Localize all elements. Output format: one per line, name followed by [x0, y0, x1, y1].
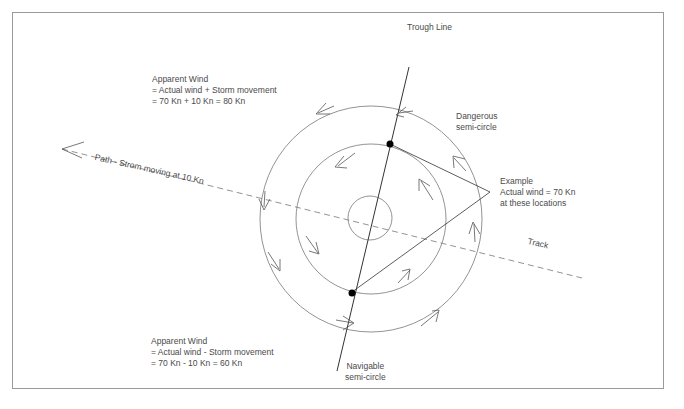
dangerous-label-line1: Dangerous: [456, 111, 498, 122]
storm-circles: [260, 106, 482, 332]
example-label: Example Actual wind = 70 Kn at these loc…: [500, 176, 575, 209]
storm-diagram: [0, 0, 684, 409]
wind-arrow-icon: [316, 103, 334, 114]
example-line3: at these locations: [500, 198, 575, 209]
outer-circle: [260, 106, 482, 332]
apparent-wind-top-label: Apparent Wind = Actual wind + Storm move…: [152, 74, 277, 107]
dangerous-label-line2: semi-circle: [456, 122, 498, 133]
wind-arrow-icon: [421, 310, 439, 326]
wind-arrow-icon: [306, 236, 319, 254]
apparent-wind-top-line2: = Actual wind + Storm movement: [152, 85, 277, 96]
navigable-label-line2: semi-circle: [345, 372, 386, 383]
wind-arrow-icon: [469, 222, 480, 242]
middle-circle: [296, 144, 446, 294]
wind-arrow-icon: [453, 156, 466, 171]
dangerous-semicircle-label: Dangerous semi-circle: [456, 111, 498, 133]
wind-arrow-icon: [419, 179, 433, 200]
apparent-wind-bottom-line3: = 70 Kn - 10 Kn = 60 Kn: [151, 358, 274, 369]
example-line2: Actual wind = 70 Kn: [500, 187, 575, 198]
apparent-wind-bottom-line2: = Actual wind - Storm movement: [151, 347, 274, 358]
dangerous-point-dot: [387, 141, 394, 148]
example-line1: Example: [500, 176, 575, 187]
wind-arrow-icon: [335, 153, 355, 168]
trough-line-label: Trough Line: [407, 22, 452, 33]
apparent-wind-top-line3: = 70 Kn + 10 Kn = 80 Kn: [152, 96, 277, 107]
navigable-semicircle-label: Navigable semi-circle: [345, 361, 386, 383]
wind-arrow-icon: [268, 252, 280, 271]
apparent-wind-top-line1: Apparent Wind: [152, 74, 277, 85]
navigable-point-dot: [349, 290, 356, 297]
navigable-label-line1: Navigable: [345, 361, 386, 372]
wind-arrows: [259, 103, 480, 330]
apparent-wind-bottom-label: Apparent Wind = Actual wind - Storm move…: [151, 336, 274, 369]
apparent-wind-bottom-line1: Apparent Wind: [151, 336, 274, 347]
wind-arrow-icon: [398, 269, 410, 283]
wind-arrow-icon: [336, 316, 354, 330]
